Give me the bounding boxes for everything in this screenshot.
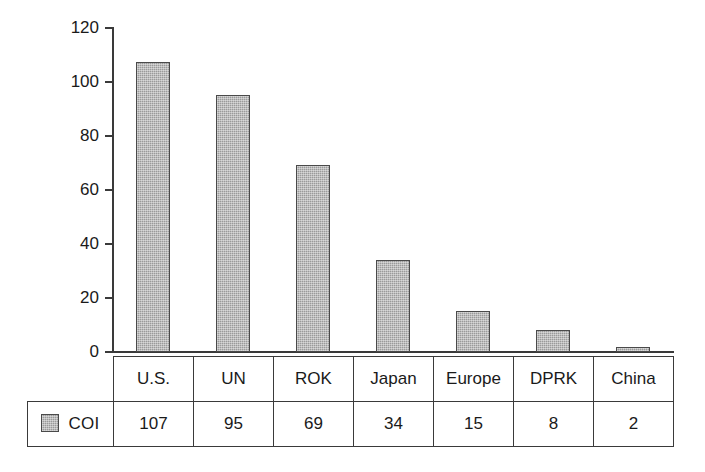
chart-data-table: U.S. UN ROK Japan Europe DPRK China COI … bbox=[27, 356, 673, 445]
value-axis-label-20: 20 bbox=[53, 289, 99, 306]
table-header-us: U.S. bbox=[114, 357, 194, 402]
table-header-row: U.S. UN ROK Japan Europe DPRK China bbox=[28, 357, 674, 402]
value-axis-tick-120 bbox=[105, 27, 112, 29]
table-header-rok: ROK bbox=[274, 357, 354, 402]
bar-dprk[interactable] bbox=[536, 330, 570, 352]
bar-un[interactable] bbox=[216, 95, 250, 352]
table-value-dprk: 8 bbox=[514, 402, 594, 447]
table-value-us: 107 bbox=[114, 402, 194, 447]
table-value-un: 95 bbox=[194, 402, 274, 447]
value-axis-tick-100 bbox=[105, 81, 112, 83]
bar-slot-dprk bbox=[513, 27, 593, 352]
table-header-china: China bbox=[594, 357, 674, 402]
bar-rok[interactable] bbox=[296, 165, 330, 352]
table-value-europe: 15 bbox=[434, 402, 514, 447]
value-axis-tick-60 bbox=[105, 189, 112, 191]
value-axis-tick-20 bbox=[105, 297, 112, 299]
value-axis-label-80: 80 bbox=[53, 127, 99, 144]
bar-slot-japan bbox=[353, 27, 433, 352]
table-value-row: COI 107 95 69 34 15 8 2 bbox=[28, 402, 674, 447]
bar-slot-europe bbox=[433, 27, 513, 352]
table-corner-blank bbox=[28, 357, 114, 402]
legend-key-cell: COI bbox=[28, 402, 114, 447]
value-axis-label-120: 120 bbox=[53, 19, 99, 36]
legend-series-label: COI bbox=[68, 414, 99, 433]
bar-slot-us bbox=[113, 27, 193, 352]
value-axis-tick-80 bbox=[105, 135, 112, 137]
bar-us[interactable] bbox=[136, 62, 170, 352]
legend-swatch-icon bbox=[41, 414, 59, 432]
bar-slot-rok bbox=[273, 27, 353, 352]
table-header-japan: Japan bbox=[354, 357, 434, 402]
table-header-dprk: DPRK bbox=[514, 357, 594, 402]
table-header-europe: Europe bbox=[434, 357, 514, 402]
value-axis-tick-0 bbox=[105, 351, 112, 353]
bar-europe[interactable] bbox=[456, 311, 490, 352]
bar-japan[interactable] bbox=[376, 260, 410, 352]
table-value-japan: 34 bbox=[354, 402, 434, 447]
value-axis-label-100: 100 bbox=[53, 73, 99, 90]
bar-chart-figure: 120 100 80 60 40 20 0 bbox=[0, 0, 705, 472]
table-header-un: UN bbox=[194, 357, 274, 402]
value-axis-tick-40 bbox=[105, 243, 112, 245]
bar-slot-china bbox=[593, 27, 673, 352]
table-value-china: 2 bbox=[594, 402, 674, 447]
value-axis-label-40: 40 bbox=[53, 235, 99, 252]
plot-area bbox=[113, 27, 673, 352]
table-value-rok: 69 bbox=[274, 402, 354, 447]
value-axis-label-60: 60 bbox=[53, 181, 99, 198]
bar-china[interactable] bbox=[616, 347, 650, 352]
bar-slot-un bbox=[193, 27, 273, 352]
